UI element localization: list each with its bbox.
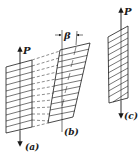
block-c-layers <box>108 32 128 102</box>
panel-label-a: (a) <box>25 142 39 152</box>
beta-tick <box>76 31 77 45</box>
angle-label-beta: β <box>63 30 71 41</box>
panel-c <box>108 10 128 116</box>
panel-label-b: (b) <box>64 127 79 137</box>
panel-label-c: (c) <box>124 111 138 121</box>
panel-a <box>6 49 32 144</box>
block-b-layer-ticks <box>62 47 76 106</box>
block-a-layers <box>6 66 32 127</box>
block-a-outline <box>6 60 32 133</box>
force-label-c: P <box>123 6 132 17</box>
panel-b <box>48 30 90 132</box>
dashed-connectors <box>32 51 60 127</box>
shear-diagram: P (a) <box>0 0 140 153</box>
force-label-a: P <box>22 45 31 56</box>
